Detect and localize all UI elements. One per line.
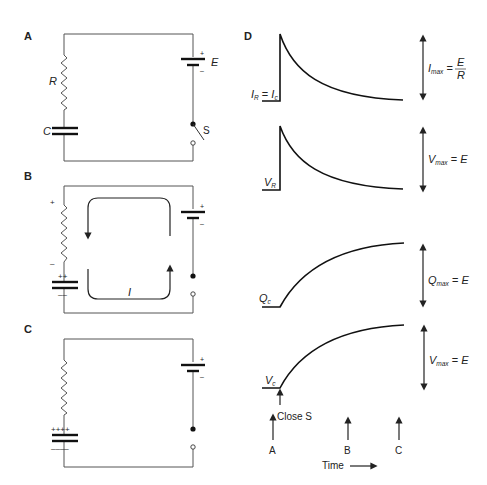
current-flow-arrows (88, 198, 170, 299)
rc-circuit-figure: A R C + – E S B (0, 0, 487, 485)
svg-text:IR = Ic: IR = Ic (251, 88, 278, 101)
resistor-icon (61, 205, 67, 262)
svg-text:VR: VR (264, 176, 276, 189)
capacitor-label: C (43, 125, 51, 137)
marker-label-a: A (269, 445, 276, 456)
svg-text:+: + (200, 356, 204, 363)
capacitor-minus-charges: –– (58, 290, 67, 299)
svg-text:R: R (457, 69, 465, 81)
svg-text:Vmax = E: Vmax = E (428, 153, 468, 166)
panel-label-d: D (244, 30, 252, 42)
graph-capacitor-charge: Qc Qmax = E (259, 243, 469, 307)
graph-current: IR = Ic Imax = E R (251, 34, 466, 101)
resistor-minus: – (50, 259, 55, 268)
switch-label: S (203, 125, 210, 136)
capacitor-plus-charges: ++ (58, 272, 68, 281)
close-switch-label: Close S (277, 411, 312, 422)
capacitor-icon (52, 128, 78, 134)
battery-icon (181, 59, 205, 65)
graph-capacitor-voltage: Vc Vmax = E (262, 325, 469, 388)
svg-text:E: E (457, 56, 465, 68)
switch-closed-icon (190, 426, 195, 449)
svg-text:+: + (200, 50, 204, 57)
capacitor-icon (52, 282, 78, 288)
resistor-plus: + (50, 198, 55, 207)
circuit-b: B + – ++ –– + – I (24, 170, 205, 313)
panel-label-c: C (24, 323, 32, 335)
svg-text:–: – (200, 373, 204, 380)
time-label: Time (322, 460, 344, 471)
resistor-icon (61, 55, 67, 110)
svg-text:–: – (200, 67, 204, 74)
svg-text:Vmax = E: Vmax = E (429, 354, 469, 367)
current-label: I (128, 286, 131, 298)
battery-label: E (211, 56, 219, 68)
svg-text:Vc: Vc (265, 374, 276, 387)
svg-text:–: – (200, 220, 204, 227)
switch-icon (190, 121, 204, 145)
marker-label-b: B (344, 445, 351, 456)
capacitor-minus-charges: –––– (51, 444, 69, 453)
panel-label-b: B (24, 170, 32, 182)
svg-text:+: + (200, 203, 204, 210)
battery-icon (181, 212, 205, 218)
switch-closed-icon (190, 273, 195, 296)
circuit-a: A R C + – E S (24, 30, 219, 161)
svg-text:Qc: Qc (259, 292, 272, 305)
resistor-label: R (49, 75, 57, 87)
svg-text:Imax =: Imax = (428, 62, 453, 75)
battery-icon (181, 365, 205, 371)
capacitor-plus-charges: ++++ (51, 425, 70, 434)
panel-label-a: A (24, 30, 32, 42)
graphs-panel-d: D IR = Ic Imax = E R VR Vmax = E (244, 30, 469, 471)
time-axis: Close S A B C Time (269, 392, 402, 471)
circuit-c: C ++++ –––– + – (24, 323, 205, 467)
graph-resistor-voltage: VR Vmax = E (262, 126, 468, 190)
marker-label-c: C (395, 445, 402, 456)
resistor-icon (61, 360, 67, 415)
svg-text:Qmax = E: Qmax = E (428, 274, 469, 287)
capacitor-icon (52, 435, 78, 441)
